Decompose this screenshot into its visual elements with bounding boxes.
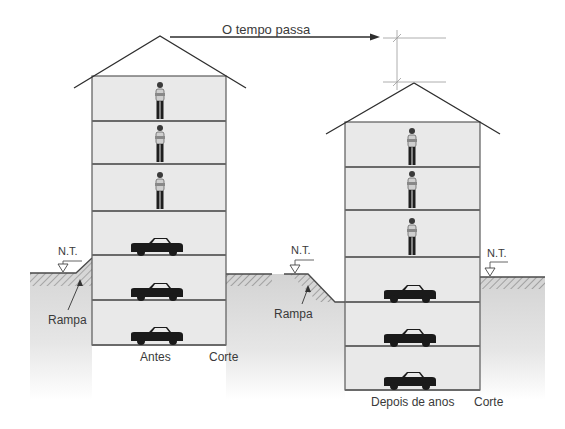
building-after bbox=[326, 83, 500, 390]
building-settlement-diagram bbox=[0, 0, 565, 429]
section-label-right: Corte bbox=[474, 396, 503, 408]
ground-right bbox=[480, 277, 545, 400]
ground-level-label-right: N.T. bbox=[487, 248, 507, 259]
nt-marker-right bbox=[485, 262, 508, 276]
building-before bbox=[74, 36, 246, 345]
ground-left bbox=[30, 258, 92, 400]
ground-level-label-left: N.T. bbox=[58, 246, 78, 257]
ramp-label-middle: Rampa bbox=[274, 308, 313, 320]
ground-level-label-middle: N.T. bbox=[291, 245, 311, 256]
ground-middle bbox=[226, 274, 345, 400]
ramp-label-left: Rampa bbox=[48, 314, 87, 326]
caption-before: Antes bbox=[140, 351, 171, 363]
caption-after: Depois de anos bbox=[371, 396, 454, 408]
time-passes-label: O tempo passa bbox=[222, 23, 310, 36]
nt-marker-middle bbox=[290, 260, 314, 273]
section-label-left: Corte bbox=[209, 351, 238, 363]
settlement-dimension bbox=[383, 30, 446, 90]
